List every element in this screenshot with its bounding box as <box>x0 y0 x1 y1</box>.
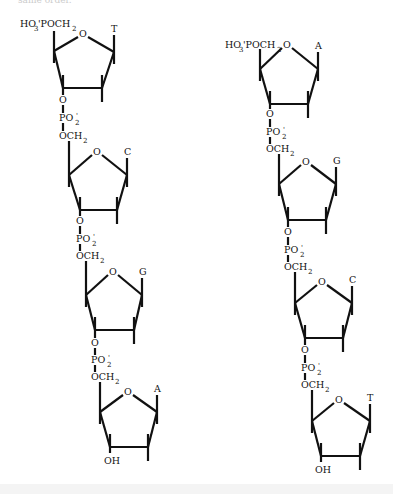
nucleotide-unit-t: OTOH <box>312 392 374 475</box>
methylene-sub: 2 <box>115 378 119 386</box>
methylene-label: OCH <box>266 143 289 154</box>
base-label: T <box>367 392 374 403</box>
ring-bond <box>118 275 142 295</box>
methylene-label: OCH <box>76 250 99 261</box>
methylene-label: OCH <box>59 130 82 141</box>
label-poch: 'POCH <box>243 39 275 50</box>
ring-bond <box>148 412 157 447</box>
phosphate-charge: ' <box>283 126 285 134</box>
phosphate-sub: 2 <box>107 361 111 369</box>
ester-oxygen-label: O <box>284 226 292 237</box>
methylene-label: OCH <box>284 261 307 272</box>
phosphate-label: PO <box>266 126 280 137</box>
ring-bond <box>311 165 336 184</box>
methylene-sub: 2 <box>308 268 312 276</box>
ester-oxygen-label: O <box>76 215 84 226</box>
phosphate-sub: 2 <box>300 251 304 259</box>
ring-oxygen-label: O <box>318 276 326 287</box>
phosphate-sub: 2 <box>92 240 96 248</box>
left-strand: HO3'POCH2OTOPO2'OCH2OCOPO2'OCH2OGOPO2'OC… <box>20 18 161 466</box>
right-strand: HO3'POCH2OAOPO2'OCH2OGOPO2'OCH2OCOPO2'OC… <box>225 39 374 475</box>
base-label: G <box>333 155 341 166</box>
ring-oxygen-label: O <box>93 146 101 157</box>
ring-bond <box>86 275 108 295</box>
nucleotide-unit-t: OTOPO2'OCH2 <box>54 23 118 145</box>
ring-bond <box>54 51 63 88</box>
methylene-sub: 2 <box>83 137 87 145</box>
base-label: A <box>153 383 161 394</box>
ring-bond <box>326 184 336 220</box>
phosphate-charge: ' <box>318 362 320 370</box>
phosphate-charge: ' <box>93 233 95 241</box>
ester-oxygen-label: O <box>59 94 67 105</box>
ester-oxygen-label: O <box>301 344 309 355</box>
methylene-sub: 2 <box>290 150 294 158</box>
ring-bond <box>86 295 95 330</box>
methylene-sub: 2 <box>325 386 329 394</box>
ester-oxygen-label: O <box>91 337 99 348</box>
nucleotide-unit-a: OAOPO2'OCH2 <box>260 39 322 158</box>
page-edge <box>0 484 393 494</box>
phosphate-charge: ' <box>108 354 110 362</box>
hydroxyl-label: OH <box>104 455 120 466</box>
phosphate-label: PO <box>76 233 90 244</box>
ring-oxygen-label: O <box>335 394 343 405</box>
ring-bond <box>312 403 334 421</box>
ring-bond <box>88 37 114 52</box>
ring-bond <box>295 285 317 303</box>
ring-bond <box>308 69 318 104</box>
base-label: C <box>349 274 356 285</box>
base-label: C <box>124 146 131 157</box>
ring-bond <box>100 395 123 412</box>
nucleotide-unit-c: OCOPO2'OCH2 <box>295 274 356 394</box>
phosphate-charge: ' <box>301 244 303 252</box>
ring-bond <box>134 295 142 330</box>
ring-bond <box>69 175 80 210</box>
methylene-label: OCH <box>301 379 324 390</box>
ring-oxygen-label: O <box>79 28 87 39</box>
ring-bond <box>102 52 114 88</box>
phosphate-label: PO <box>91 354 105 365</box>
methylene-sub: 2 <box>100 257 104 265</box>
ring-bond <box>344 403 370 421</box>
phosphate-label: PO <box>59 112 73 123</box>
ring-bond <box>292 48 318 69</box>
ring-bond <box>102 155 127 175</box>
ring-bond <box>279 184 288 220</box>
dna-strands-diagram: HO3'POCH2OTOPO2'OCH2OCOPO2'OCH2OGOPO2'OC… <box>0 0 393 494</box>
phosphate-label: PO <box>301 362 315 373</box>
phosphate-label: PO <box>284 244 298 255</box>
ring-oxygen-label: O <box>109 266 117 277</box>
label-poch: 'POCH <box>38 18 70 29</box>
ring-bond <box>133 395 157 412</box>
phosphate-sub: 2 <box>282 133 286 141</box>
five-prime-phosphate-label: HO3'POCH2 <box>20 18 76 33</box>
ester-oxygen-label: O <box>266 108 274 119</box>
nucleotide-unit-c: OCOPO2'OCH2 <box>69 146 131 265</box>
ring-bond <box>69 155 92 175</box>
ring-bond <box>117 175 127 210</box>
ring-bond <box>343 303 352 338</box>
ring-bond <box>279 165 301 184</box>
ring-bond <box>260 69 270 104</box>
nucleotide-unit-g: OGOPO2'OCH2 <box>86 266 147 386</box>
base-label: G <box>139 266 147 277</box>
methylene-label: OCH <box>91 371 114 382</box>
label-sub: 2 <box>72 25 76 33</box>
ring-oxygen-label: O <box>302 156 310 167</box>
hydroxyl-label: OH <box>315 464 331 475</box>
phosphate-sub: 2 <box>317 369 321 377</box>
ring-bond <box>360 421 370 456</box>
ring-bond <box>100 412 110 447</box>
five-prime-phosphate-label: HO3'POCH2 <box>225 39 281 54</box>
ring-bond <box>327 285 352 303</box>
base-label: T <box>111 23 118 34</box>
nucleotide-unit-a: OAOH <box>100 383 161 466</box>
ring-bond <box>295 303 305 338</box>
ring-oxygen-label: O <box>124 386 132 397</box>
ring-oxygen-label: O <box>283 39 291 50</box>
base-label: A <box>314 40 322 51</box>
ring-bond <box>54 37 78 51</box>
ring-bond <box>312 421 321 456</box>
nucleotide-unit-g: OGOPO2'OCH2 <box>279 155 341 276</box>
